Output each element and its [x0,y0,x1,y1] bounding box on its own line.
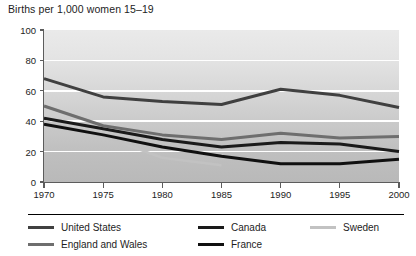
chart-figure: Births per 1,000 women 15–19 02040608010… [0,0,416,256]
y-tick-label: 40 [0,116,36,127]
legend-label: Canada [231,222,266,233]
y-tick-label: 80 [0,55,36,66]
y-tick-label: 100 [0,25,36,36]
legend-row: England and Wales France [28,236,412,253]
x-tick-mark [280,183,281,188]
chart-title: Births per 1,000 women 15–19 [8,3,154,15]
y-tick-label: 20 [0,146,36,157]
y-tick-label: 0 [0,177,36,188]
x-tick-label: 1975 [80,189,126,200]
x-tick-mark [162,183,163,188]
plot-area [44,30,399,182]
series-lines [44,30,399,182]
series-line [44,79,399,108]
x-tick-mark [339,183,340,188]
x-tick-label: 1980 [139,189,185,200]
chart-legend: United States Canada Sweden England and … [28,219,412,253]
x-tick-label: 1970 [21,189,67,200]
legend-item-england-and-wales: England and Wales [28,239,198,250]
x-tick-mark [398,183,399,188]
x-tick-mark [103,183,104,188]
x-tick-label: 1990 [258,189,304,200]
x-tick-label: 1985 [199,189,245,200]
y-tick-mark [40,60,44,61]
legend-label: United States [61,222,121,233]
y-tick-mark [40,29,44,30]
legend-swatch-icon [198,243,224,246]
legend-swatch-icon [28,226,54,229]
y-tick-mark [40,90,44,91]
y-tick-label: 60 [0,85,36,96]
legend-item-united-states: United States [28,222,198,233]
y-axis [43,29,44,183]
legend-label: Sweden [343,222,379,233]
x-tick-label: 2000 [376,189,416,200]
y-tick-mark [40,151,44,152]
legend-label: France [231,239,262,250]
legend-item-canada: Canada [198,222,310,233]
legend-divider [28,214,404,215]
legend-swatch-icon [28,243,54,246]
legend-item-france: France [198,239,310,250]
legend-item-sweden: Sweden [310,222,410,233]
y-tick-mark [40,121,44,122]
x-tick-mark [221,183,222,188]
x-tick-mark [43,183,44,188]
legend-label: England and Wales [61,239,147,250]
legend-swatch-icon [198,226,224,229]
legend-row: United States Canada Sweden [28,219,412,236]
legend-swatch-icon [310,226,336,229]
x-tick-label: 1995 [317,189,363,200]
